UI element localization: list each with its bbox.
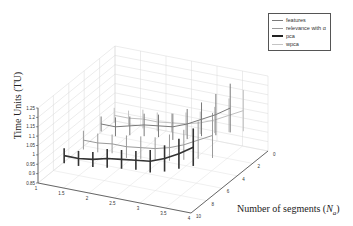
- svg-text:3.5: 3.5: [160, 211, 167, 216]
- legend: features relevance with α pca wpca: [268, 13, 331, 51]
- legend-label: wpca: [286, 41, 299, 47]
- x-axis-label-text: Number of segments (: [237, 203, 326, 214]
- svg-text:1.15: 1.15: [26, 124, 35, 129]
- svg-text:1.25: 1.25: [26, 106, 35, 111]
- x-axis-label-close: ): [336, 203, 339, 214]
- chart-series: [64, 84, 243, 173]
- svg-text:1.05: 1.05: [26, 143, 35, 148]
- x-axis-label-symbol: N: [326, 203, 333, 214]
- legend-item-wpca: wpca: [272, 40, 327, 48]
- svg-text:4: 4: [242, 177, 245, 182]
- legend-swatch: [272, 20, 283, 21]
- svg-text:3: 3: [137, 206, 140, 211]
- legend-swatch: [272, 44, 283, 45]
- svg-text:8: 8: [211, 202, 214, 207]
- svg-text:1.2: 1.2: [29, 115, 36, 120]
- legend-label: relevance with α: [286, 25, 326, 31]
- svg-text:0.95: 0.95: [26, 162, 35, 167]
- svg-text:2: 2: [258, 164, 261, 169]
- legend-swatch: [272, 35, 283, 37]
- legend-label: features: [286, 17, 306, 23]
- svg-text:2: 2: [86, 196, 89, 201]
- svg-text:10: 10: [196, 214, 202, 219]
- x-axis-label: Number of segments (Na): [237, 203, 340, 217]
- svg-text:2.5: 2.5: [109, 201, 116, 206]
- svg-text:0.9: 0.9: [29, 171, 36, 176]
- svg-text:1: 1: [35, 186, 38, 191]
- y-axis-label: Time Units (TU): [12, 51, 23, 161]
- legend-item-relevance: relevance with α: [272, 24, 327, 32]
- svg-text:1: 1: [32, 152, 35, 157]
- legend-label: pca: [286, 33, 295, 39]
- svg-text:6: 6: [227, 189, 230, 194]
- svg-text:4: 4: [188, 216, 191, 221]
- svg-text:0: 0: [273, 152, 276, 157]
- svg-text:0.85: 0.85: [26, 181, 35, 186]
- legend-item-features: features: [272, 16, 327, 24]
- chart-grid: [38, 46, 268, 213]
- svg-text:1.5: 1.5: [58, 191, 65, 196]
- svg-text:1.1: 1.1: [29, 134, 36, 139]
- legend-swatch: [272, 28, 283, 29]
- legend-item-pca: pca: [272, 32, 327, 40]
